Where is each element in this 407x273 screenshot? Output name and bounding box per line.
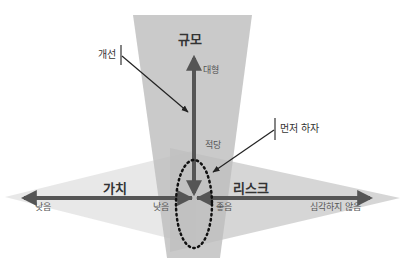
value-center-label: 낮음 [153, 203, 169, 212]
do-first-callout: 먼저 하자 [280, 124, 319, 134]
scale-axis-title: 규모 [178, 33, 202, 46]
improve-callout: 개선 [98, 50, 116, 60]
diagram-shapes [0, 0, 407, 273]
diagram-canvas: 규모 대형 적당 가치 낮음 낮음 리스크 좋음 심각하지 않음 개선 먼저 하… [0, 0, 407, 273]
scale-low-label: 적당 [205, 141, 221, 150]
scale-high-label: 대형 [203, 66, 219, 75]
risk-axis-title: 리스크 [233, 182, 269, 195]
value-axis-title: 가치 [103, 182, 127, 195]
risk-right-label: 심각하지 않음 [310, 203, 361, 212]
value-left-label: 낮음 [35, 203, 51, 212]
risk-center-label: 좋음 [216, 203, 232, 212]
